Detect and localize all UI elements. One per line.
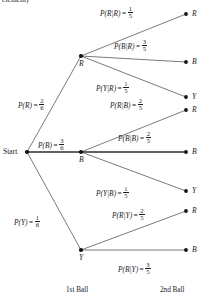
prob-label-p-r: P(R) = 2 6 [18, 98, 44, 113]
prob-eq-p-y-given-r: = [118, 85, 122, 92]
prob-den-p-b-given-y: 5 [145, 268, 150, 276]
prob-label-p-b-given-y: P(B|Y) = 3 5 [118, 262, 151, 277]
prob-expr-p-y: P(Y) [14, 219, 28, 226]
node-ry-dot [184, 95, 188, 99]
prob-num-p-b-given-b: 2 [146, 131, 151, 138]
prob-frac-p-b: 3 6 [59, 138, 64, 153]
prob-num-p-y-given-b: 1 [123, 186, 128, 193]
prob-den-p-r-given-r: 5 [128, 12, 133, 20]
prob-frac-p-b-given-b: 2 5 [146, 131, 151, 146]
branch-red-to-blue [81, 56, 186, 62]
prob-expr-p-r-given-b: P(R|B) [110, 102, 131, 109]
prob-num-p-r: 2 [39, 98, 44, 105]
node-label-start: Start [3, 148, 17, 156]
node-label-ry: Y [192, 93, 196, 101]
prob-label-p-y: P(Y) = 1 6 [14, 215, 40, 230]
prob-eq-p-r: = [33, 102, 37, 109]
prob-eq-p-r-given-y: = [134, 212, 138, 219]
node-first-blue-dot [79, 150, 83, 154]
node-start-dot [25, 150, 29, 154]
node-label-first-red: R [79, 60, 84, 68]
prob-label-p-r-given-y: P(R|Y) = 2 5 [112, 208, 145, 223]
prob-den-p-b-given-r: 5 [142, 45, 147, 53]
prob-expr-p-b-given-r: P(B|R) [114, 43, 135, 50]
prob-num-p-b-given-y: 3 [145, 262, 150, 269]
node-label-bb: B [192, 148, 197, 156]
prob-den-p-b-given-b: 5 [146, 137, 151, 145]
prob-label-p-y-given-b: P(Y|B) = 1 5 [96, 186, 129, 201]
node-label-br: R [192, 106, 197, 114]
prob-label-p-r-given-b: P(R|B) = 2 5 [110, 98, 143, 113]
branch-start-to-yellow [27, 152, 81, 250]
prob-num-p-b: 3 [59, 138, 64, 145]
node-label-rr: R [192, 10, 197, 18]
probability-tree-diagram: element) Start R B Y R B Y [0, 0, 211, 299]
prob-expr-p-b: P(B) [38, 142, 52, 149]
node-first-red-dot [79, 54, 83, 58]
prob-label-p-r-given-r: P(R|R) = 1 5 [100, 6, 133, 21]
prob-frac-p-y-given-r: 1 5 [123, 81, 128, 96]
prob-eq-p-r-given-r: = [122, 10, 126, 17]
prob-den-p-r: 6 [39, 104, 44, 112]
prob-den-p-y-given-b: 5 [123, 192, 128, 200]
prob-label-p-y-given-r: P(Y|R) = 1 5 [96, 81, 129, 96]
node-yr-dot [184, 209, 188, 213]
node-br-dot [184, 108, 188, 112]
prob-frac-p-b-given-r: 3 5 [142, 39, 147, 54]
prob-eq-p-y-given-b: = [118, 190, 122, 197]
node-by-dot [184, 189, 188, 193]
node-label-first-yellow: Y [79, 254, 83, 262]
prob-eq-p-y: = [29, 219, 33, 226]
prob-num-p-y: 1 [35, 215, 40, 222]
prob-expr-p-r: P(R) [18, 102, 32, 109]
prob-frac-p-b-given-y: 3 5 [145, 262, 150, 277]
prob-frac-p-r-given-y: 2 5 [139, 208, 144, 223]
prob-den-p-b: 6 [59, 144, 64, 152]
prob-expr-p-y-given-r: P(Y|R) [96, 85, 116, 92]
node-rb-dot [184, 60, 188, 64]
prob-frac-p-r: 2 6 [39, 98, 44, 113]
prob-label-p-b-given-b: P(B|B) = 2 5 [118, 131, 151, 146]
prob-expr-p-b-given-y: P(B|Y) [118, 266, 138, 273]
prob-num-p-r-given-r: 1 [128, 6, 133, 13]
prob-expr-p-b-given-b: P(B|B) [118, 135, 139, 142]
prob-label-p-b-given-r: P(B|R) = 3 5 [114, 39, 147, 54]
prob-frac-p-r-given-r: 1 5 [128, 6, 133, 21]
node-label-yr: R [192, 207, 197, 215]
tree-branches-svg [0, 0, 211, 299]
prob-eq-p-b-given-b: = [140, 135, 144, 142]
prob-den-p-y: 6 [35, 221, 40, 229]
node-rr-dot [184, 12, 188, 16]
prob-num-p-r-given-y: 2 [139, 208, 144, 215]
prob-eq-p-b: = [53, 142, 57, 149]
node-label-yb: B [192, 246, 197, 254]
prob-eq-p-b-given-r: = [136, 43, 140, 50]
node-label-first-blue: B [79, 156, 84, 164]
prob-frac-p-r-given-b: 2 5 [138, 98, 143, 113]
prob-expr-p-r-given-r: P(R|R) [100, 10, 121, 17]
stage-label-second-ball: 2nd Ball [160, 287, 185, 294]
prob-num-p-y-given-r: 1 [123, 81, 128, 88]
prob-eq-p-b-given-y: = [140, 266, 144, 273]
prob-frac-p-y: 1 6 [35, 215, 40, 230]
prob-label-p-b: P(B) = 3 6 [38, 138, 64, 153]
prob-num-p-b-given-r: 3 [142, 39, 147, 46]
prob-den-p-r-given-y: 5 [139, 214, 144, 222]
node-yb-dot [184, 248, 188, 252]
prob-den-p-r-given-b: 5 [138, 104, 143, 112]
node-bb-dot [184, 150, 188, 154]
prob-expr-p-r-given-y: P(R|Y) [112, 212, 132, 219]
prob-expr-p-y-given-b: P(Y|B) [96, 190, 116, 197]
node-label-by: Y [192, 187, 196, 195]
node-first-yellow-dot [79, 248, 83, 252]
prob-frac-p-y-given-b: 1 5 [123, 186, 128, 201]
prob-eq-p-r-given-b: = [132, 102, 136, 109]
prob-den-p-y-given-r: 5 [123, 87, 128, 95]
prob-num-p-r-given-b: 2 [138, 98, 143, 105]
stage-label-first-ball: 1st Ball [66, 287, 88, 294]
node-label-rb: B [192, 58, 197, 66]
